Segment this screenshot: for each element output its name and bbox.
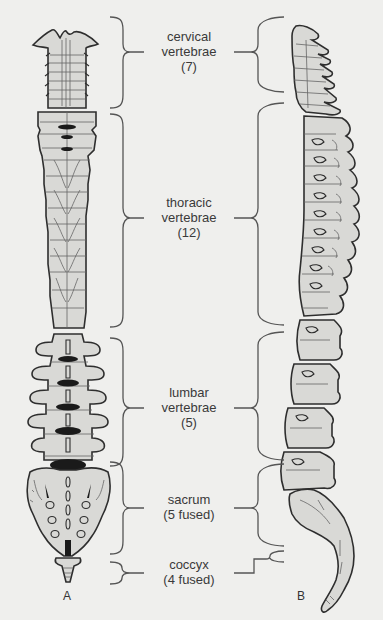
thoracic-vertebrae-a xyxy=(38,112,96,328)
label-thoracic: thoracic vertebrae (12) xyxy=(134,195,244,240)
coccyx-a xyxy=(55,558,81,582)
cervical-vertebrae-a xyxy=(33,30,98,108)
panel-label-a: A xyxy=(63,589,71,603)
cervical-vertebrae-b xyxy=(292,25,340,114)
label-cervical: cervical vertebrae (7) xyxy=(134,29,244,74)
spine-diagram: .bone { fill: #d9d9d6; stroke: #2e2e2e; … xyxy=(0,0,383,620)
label-sacrum: sacrum (5 fused) xyxy=(134,492,244,522)
spine-illustration: .bone { fill: #d9d9d6; stroke: #2e2e2e; … xyxy=(0,0,383,620)
panel-label-b: B xyxy=(297,589,305,603)
label-lumbar: lumbar vertebrae (5) xyxy=(134,385,244,430)
spine-view-b xyxy=(281,25,359,612)
brackets-right xyxy=(234,17,284,573)
spine-view-a xyxy=(27,30,110,582)
thoracic-vertebrae-b xyxy=(299,116,359,316)
lumbar-vertebrae-b xyxy=(281,320,342,490)
lumbar-vertebrae-a xyxy=(28,334,108,471)
label-coccyx: coccyx (4 fused) xyxy=(134,557,244,587)
sacrum-a xyxy=(27,468,110,556)
